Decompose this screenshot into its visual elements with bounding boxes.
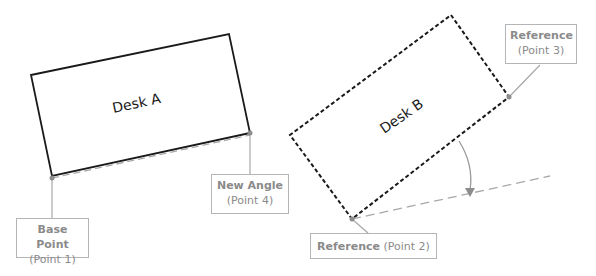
base-point-label: Base Point (Point 1)	[16, 218, 89, 258]
rotation-arrowhead-icon	[465, 188, 475, 197]
point-3-marker	[507, 95, 512, 100]
reference-3-sub: (Point 3)	[510, 43, 572, 58]
reference-2-leader	[352, 219, 368, 233]
rotation-diagram: Desk A Desk B Base Point (Point 1) New A…	[0, 0, 596, 276]
new-angle-label: New Angle (Point 4)	[211, 174, 289, 214]
base-point-title: Base Point	[36, 223, 68, 251]
reference-3-leader	[509, 65, 540, 97]
new-angle-title: New Angle	[217, 179, 283, 192]
base-point-sub: (Point 1)	[21, 252, 84, 267]
new-angle-sub: (Point 4)	[216, 193, 284, 208]
reference-2-sub: (Point 2)	[383, 240, 429, 253]
reference-2-title: Reference	[317, 240, 380, 253]
reference-3-label: Reference (Point 3)	[505, 24, 577, 64]
reference-3-title: Reference	[510, 29, 573, 42]
point-1-marker	[50, 176, 55, 181]
reference-2-label: Reference (Point 2)	[310, 233, 437, 259]
point-2-marker	[350, 217, 355, 222]
point-4-marker	[248, 131, 253, 136]
rotation-arc	[459, 141, 471, 190]
